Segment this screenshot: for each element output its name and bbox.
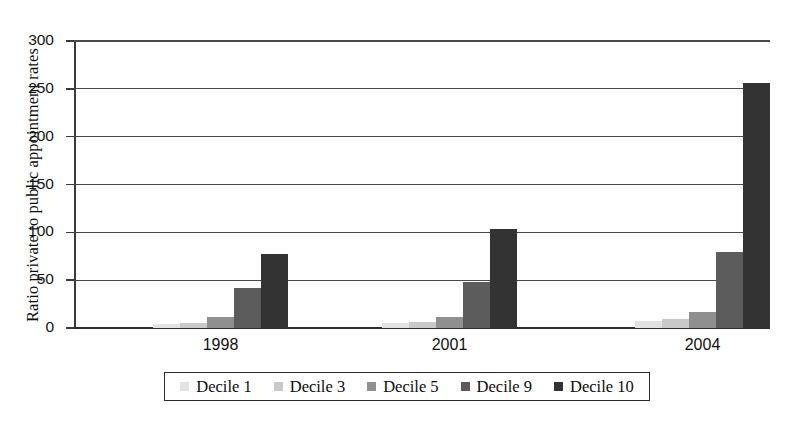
- bar-decile-9-1998: [234, 288, 261, 328]
- plot-area: [74, 41, 770, 328]
- x-axis-label-1998: 1998: [176, 336, 266, 354]
- y-axis-tick-label: 150: [8, 175, 54, 193]
- y-axis-tick-label: 50: [8, 270, 54, 288]
- legend-item-decile-9[interactable]: Decile 9: [450, 377, 543, 397]
- y-axis-tick-label: 100: [8, 222, 54, 240]
- bar-decile-5-2001: [436, 317, 463, 328]
- bar-decile-9-2004: [716, 252, 743, 328]
- bar-decile-3-2004: [662, 319, 689, 328]
- legend-label: Decile 3: [290, 377, 345, 397]
- y-axis-tick: [66, 184, 74, 185]
- y-axis-tick: [66, 40, 74, 41]
- y-axis-tick-label: 300: [8, 31, 54, 49]
- y-axis-tick: [66, 88, 74, 89]
- legend-item-decile-10[interactable]: Decile 10: [543, 377, 645, 397]
- bar-decile-1-2001: [382, 323, 409, 328]
- y-axis-tick: [66, 232, 74, 233]
- bar-groups: [74, 41, 770, 328]
- bar-decile-3-2001: [409, 322, 436, 328]
- y-axis-tick: [66, 327, 74, 328]
- bar-decile-9-2001: [463, 282, 490, 328]
- y-axis-tick-label: 0: [8, 318, 54, 336]
- legend-label: Decile 5: [383, 377, 438, 397]
- y-axis-tick-label: 200: [8, 127, 54, 145]
- chart-legend: Decile 1Decile 3Decile 5Decile 9Decile 1…: [164, 372, 650, 401]
- bar-group: [382, 41, 517, 328]
- legend-swatch-icon: [180, 382, 189, 391]
- y-axis-tick: [66, 136, 74, 137]
- bar-decile-10-2001: [490, 229, 517, 328]
- bar-decile-5-2004: [689, 312, 716, 328]
- bar-decile-3-1998: [180, 323, 207, 328]
- bar-chart: Ratio private to public appointment rate…: [0, 0, 811, 423]
- legend-item-decile-3[interactable]: Decile 3: [263, 377, 356, 397]
- bar-decile-1-2004: [635, 321, 662, 328]
- y-axis-tick-label: 250: [8, 79, 54, 97]
- legend-label: Decile 1: [196, 377, 251, 397]
- legend-swatch-icon: [367, 382, 376, 391]
- y-axis-tick: [66, 279, 74, 280]
- x-axis-label-2001: 2001: [405, 336, 495, 354]
- bar-group: [153, 41, 288, 328]
- bar-decile-5-1998: [207, 317, 234, 328]
- legend-swatch-icon: [274, 382, 283, 391]
- bar-decile-1-1998: [153, 324, 180, 328]
- legend-item-decile-1[interactable]: Decile 1: [169, 377, 262, 397]
- bar-decile-10-1998: [261, 254, 288, 328]
- legend-swatch-icon: [554, 382, 563, 391]
- bar-group: [635, 41, 770, 328]
- legend-swatch-icon: [461, 382, 470, 391]
- legend-label: Decile 9: [477, 377, 532, 397]
- legend-label: Decile 10: [570, 377, 634, 397]
- legend-item-decile-5[interactable]: Decile 5: [356, 377, 449, 397]
- bar-decile-10-2004: [743, 83, 770, 328]
- x-axis-label-2004: 2004: [658, 336, 748, 354]
